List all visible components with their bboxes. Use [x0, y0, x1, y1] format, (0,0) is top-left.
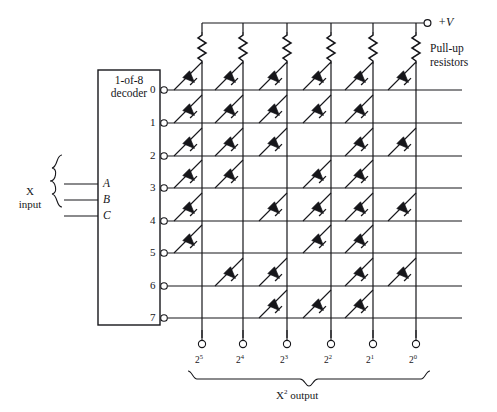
diode-r4-c2 [259, 193, 287, 221]
diode-r4-c5 [388, 193, 416, 221]
diode-r0-c5 [388, 62, 416, 90]
decoder-output-label-1: 1 [150, 116, 156, 128]
diode-r4-c3 [303, 193, 331, 221]
decoder-input-label-c: C [103, 209, 111, 221]
x-input-label-line1: X [12, 185, 48, 198]
pullup-resistor-3 [283, 32, 291, 64]
decoder-input-label-a: A [103, 177, 110, 189]
diode-r4-c4 [345, 193, 373, 221]
pullup-resistors-label: Pull-up resistors [430, 42, 468, 69]
output-bit-label-2: 23 [280, 353, 288, 365]
output-terminal-1 [239, 330, 246, 348]
diode-r1-c3 [303, 95, 331, 123]
output-terminal-3 [327, 330, 334, 348]
diode-r3-c0 [174, 160, 202, 188]
diode-r7-c4 [345, 290, 373, 318]
supply-voltage-label: +V [438, 15, 453, 30]
pullup-resistor-5 [369, 32, 377, 64]
output-bit-exponent-1: 4 [241, 353, 244, 360]
decoder-label-line2: decoder [101, 87, 157, 100]
diode-r5-c3 [303, 225, 331, 253]
decoder-output-label-2: 2 [150, 149, 156, 161]
diode-r3-c1 [215, 160, 243, 188]
decoder-output-row-1 [161, 120, 462, 127]
diode-r1-c0 [174, 95, 202, 123]
decoder-input-label-b: B [103, 193, 110, 205]
output-bit-exponent-2: 3 [285, 353, 288, 360]
decoder-output-row-5 [161, 250, 462, 257]
pullup-resistor-2 [239, 32, 247, 64]
diode-r3-c3 [303, 160, 331, 188]
output-bit-exponent-5: 0 [414, 353, 417, 360]
diode-r1-c2 [259, 95, 287, 123]
diode-r6-c1 [215, 258, 243, 286]
output-bit-exponent-0: 5 [200, 353, 203, 360]
figure-canvas: 1-of-8 decoder 0 1 2 3 4 5 6 7 A B C X i… [0, 0, 497, 412]
decoder-label: 1-of-8 decoder [101, 74, 157, 100]
x-squared-output-label: X2 output [276, 388, 318, 401]
diode-r7-c3 [303, 290, 331, 318]
output-bit-exponent-3: 2 [329, 353, 332, 360]
diode-r4-c0 [174, 193, 202, 221]
x-input-label: X input [12, 185, 48, 211]
decoder-output-row-3 [161, 185, 462, 192]
decoder-output-label-7: 7 [150, 311, 156, 323]
output-terminal-0 [198, 330, 205, 348]
pullup-resistor-6 [412, 32, 420, 64]
diode-r0-c0 [174, 62, 202, 90]
decoder-output-row-6 [161, 283, 462, 290]
decoder-output-row-2 [161, 153, 462, 160]
x-output-base: X [276, 389, 284, 401]
output-bit-label-4: 21 [366, 353, 374, 365]
diode-matrix-layer [174, 62, 416, 318]
output-bit-label-5: 20 [409, 353, 417, 365]
diode-r0-c2 [259, 62, 287, 90]
diode-r5-c0 [174, 225, 202, 253]
output-bit-label-1: 24 [236, 353, 244, 365]
diode-r1-c1 [215, 95, 243, 123]
output-terminal-4 [369, 330, 376, 348]
diode-r6-c5 [388, 258, 416, 286]
circuit-diagram [0, 0, 497, 412]
diode-r2-c1 [215, 128, 243, 156]
diode-r5-c4 [345, 225, 373, 253]
diode-r3-c4 [345, 160, 373, 188]
diode-r7-c2 [259, 290, 287, 318]
diode-r0-c1 [215, 62, 243, 90]
decoder-label-line1: 1-of-8 [101, 74, 157, 87]
diode-r2-c0 [174, 128, 202, 156]
decoder-output-row-4 [161, 218, 462, 225]
diode-r2-c2 [259, 128, 287, 156]
diode-r6-c2 [259, 258, 287, 286]
decoder-output-label-3: 3 [150, 181, 156, 193]
x-output-tail: output [287, 389, 318, 401]
pullup-label-line1: Pull-up [430, 42, 468, 56]
pullup-label-line2: resistors [430, 56, 468, 70]
diode-r2-c4 [345, 128, 373, 156]
decoder-output-label-0: 0 [150, 83, 156, 95]
decoder-output-label-5: 5 [150, 246, 156, 258]
output-bit-label-3: 22 [324, 353, 332, 365]
x-input-label-line2: input [12, 198, 48, 211]
diode-r2-c5 [388, 128, 416, 156]
diode-r0-c3 [303, 62, 331, 90]
output-bit-label-0: 25 [195, 353, 203, 365]
decoder-output-row-7 [161, 315, 462, 322]
decoder-output-row-0 [160, 87, 462, 94]
output-terminal-5 [412, 330, 419, 348]
diode-r1-c4 [345, 95, 373, 123]
diode-r0-c4 [345, 62, 373, 90]
decoder-output-label-6: 6 [150, 279, 156, 291]
pullup-resistor-1 [198, 32, 206, 64]
decoder-output-label-4: 4 [150, 214, 156, 226]
diode-r6-c4 [345, 258, 373, 286]
output-terminal-2 [283, 330, 290, 348]
pullup-resistor-4 [327, 32, 335, 64]
output-bit-exponent-4: 1 [371, 353, 374, 360]
